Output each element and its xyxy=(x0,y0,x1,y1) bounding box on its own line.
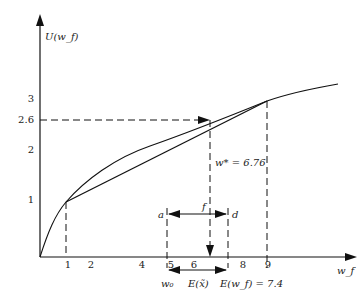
x-axis-arrow-icon xyxy=(345,253,357,261)
arrowhead-icon xyxy=(198,116,210,124)
right-arrow-icon xyxy=(215,210,227,218)
right-arrow-icon xyxy=(215,266,227,274)
x-tick-8: 8 xyxy=(240,259,246,270)
x-tick-2: 2 xyxy=(88,259,94,270)
x-tick-6: 6 xyxy=(191,259,197,270)
y-tick-2: 2 xyxy=(28,144,34,155)
certainty-equivalent-label: w* = 6.76 xyxy=(215,157,266,168)
y-tick-2-6: 2.6 xyxy=(18,114,34,125)
y-tick-3: 3 xyxy=(28,93,34,104)
expected-wealth-label: E(w_f) = 7.4 xyxy=(219,278,283,290)
w0-label: w₀ xyxy=(161,278,174,289)
x-tick-5: 5 xyxy=(168,259,174,270)
point-a-label: a xyxy=(158,209,164,220)
axes xyxy=(36,14,357,261)
y-tick-1: 1 xyxy=(28,194,34,205)
utility-curve xyxy=(40,84,338,257)
arrowhead-icon xyxy=(206,245,214,257)
x-axis-label: w_f xyxy=(337,265,357,277)
chord-line xyxy=(66,101,267,202)
y-axis-label: U(w_f) xyxy=(45,31,79,43)
point-d-label: d xyxy=(232,209,238,220)
utility-diagram: U(w_f) 1 2 2.6 3 1 2 4 5 6 8 9 w_f w* = … xyxy=(0,0,363,302)
x-tick-4: 4 xyxy=(139,259,145,270)
expected-gamble-label: E(x̃) xyxy=(187,278,209,289)
y-axis-arrow-icon xyxy=(36,14,44,26)
point-f-label: f xyxy=(201,201,208,212)
x-tick-9: 9 xyxy=(265,259,271,270)
left-arrow-icon xyxy=(168,210,180,218)
reference-lines xyxy=(40,101,267,268)
x-tick-1: 1 xyxy=(65,259,71,270)
